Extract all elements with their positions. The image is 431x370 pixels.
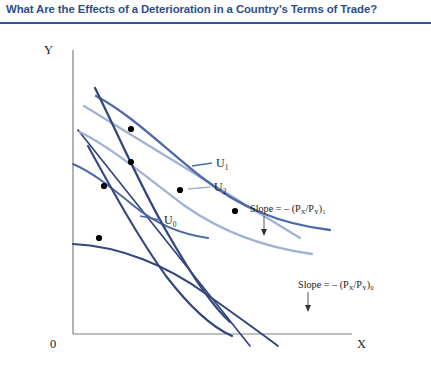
- x-axis-label: X: [357, 337, 366, 351]
- curve-label-u1: U1: [216, 156, 229, 172]
- origin-label: 0: [50, 337, 56, 351]
- curve-label-u2: U2: [214, 180, 227, 196]
- curve-label-u0: U0: [164, 213, 177, 229]
- slope-1-arrow-head: [261, 229, 267, 236]
- page-title: What Are the Effects of a Deterioration …: [6, 3, 430, 15]
- tangency-point-a: [128, 126, 134, 132]
- tangency-point-c: [101, 183, 107, 189]
- u2-leader-line: [188, 187, 210, 189]
- series-ppf-lower: [73, 244, 278, 346]
- tangency-point-f: [232, 208, 238, 214]
- y-axis-label: Y: [44, 43, 53, 57]
- tangency-point-e: [177, 187, 183, 193]
- series-ppf-outer: [95, 88, 230, 322]
- series-price-line-1: [84, 106, 300, 238]
- u1-leader-line: [192, 163, 212, 166]
- title-divider: [0, 22, 431, 24]
- slope-0-arrow-head: [305, 305, 311, 312]
- series-ppf-inner: [88, 146, 232, 336]
- chart-canvas: Y X 0: [0, 26, 431, 370]
- series-u0: [73, 164, 208, 238]
- tangency-point-b: [128, 159, 134, 165]
- slope-label-1: Slope = – (PX/PY)1: [250, 203, 325, 215]
- diagram-page: What Are the Effects of a Deterioration …: [0, 0, 431, 370]
- tangency-point-d: [96, 235, 102, 241]
- slope-label-0: Slope = – (PX/PY)0: [298, 279, 374, 291]
